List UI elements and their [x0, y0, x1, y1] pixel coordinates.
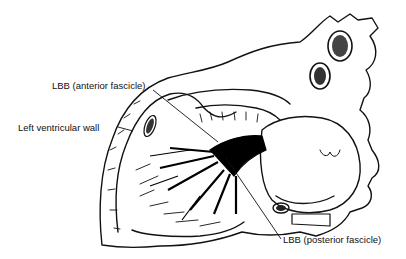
left-bundle-branch: [150, 136, 266, 220]
label-lbb-anterior-fascicle: LBB (anterior fascicle): [52, 81, 145, 91]
leader-lvwall: [118, 127, 133, 131]
label-left-ventricular-wall: Left ventricular wall: [18, 123, 99, 133]
right-chamber: [260, 117, 360, 213]
leader-posterior: [226, 158, 281, 239]
leader-anterior: [153, 90, 218, 142]
label-lbb-posterior-fascicle: LBB (posterior fascicle): [283, 235, 381, 245]
